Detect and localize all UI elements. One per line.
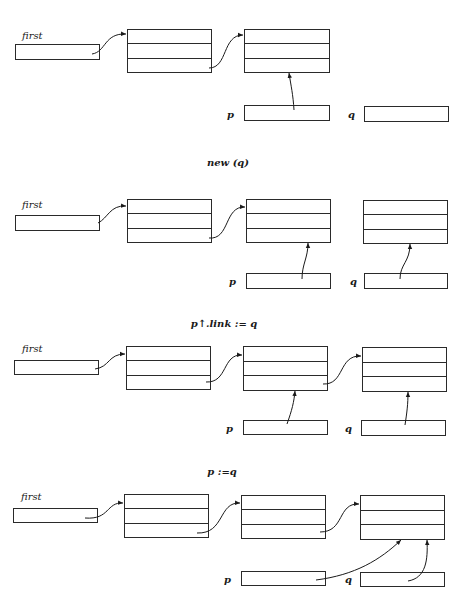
node-2 — [247, 200, 331, 243]
stage-2: first p q — [16, 199, 448, 289]
node-2 — [242, 496, 326, 539]
p-label: p — [226, 423, 233, 434]
node-1 — [127, 347, 211, 390]
q-pointer-box — [365, 274, 448, 289]
arrow-node1-to-node2 — [209, 207, 245, 238]
node-3 — [361, 496, 445, 540]
first-label: first — [20, 491, 43, 502]
first-pointer-box — [16, 45, 100, 60]
node-3 — [363, 348, 447, 392]
node-1 — [128, 200, 212, 243]
node-1 — [128, 30, 212, 73]
caption-p-assign: p :=q — [207, 466, 237, 477]
p-pointer-box — [244, 421, 328, 435]
arrow-node2-to-node3 — [323, 356, 361, 384]
q-pointer-box — [365, 107, 449, 122]
first-label: first — [21, 199, 44, 210]
p-pointer-box — [242, 572, 326, 586]
p-label: p — [224, 574, 231, 585]
q-label: q — [348, 109, 355, 120]
p-pointer-box — [245, 106, 330, 121]
arrow-first-to-node1 — [95, 354, 125, 369]
first-label: first — [21, 343, 44, 354]
first-pointer-box — [14, 509, 98, 523]
p-pointer-box — [247, 274, 331, 289]
caption-new-q: new (q) — [207, 157, 249, 168]
p-label: p — [229, 276, 236, 287]
node-1 — [125, 495, 209, 538]
p-label: p — [227, 109, 234, 120]
arrow-node1-to-node2 — [206, 355, 242, 382]
linked-list-diagram: new (q) p↑.link := q p :=q first p q fir… — [0, 0, 461, 600]
node-2 — [245, 30, 330, 73]
arrow-first-to-node1 — [98, 206, 126, 223]
node-3 — [364, 201, 448, 244]
arrow-node1-to-node2 — [209, 35, 243, 68]
arrow-p-to-node2 — [289, 73, 294, 110]
arrow-p-to-node2 — [287, 391, 295, 424]
caption-link-assign: p↑.link := q — [191, 318, 258, 329]
q-label: q — [345, 574, 352, 585]
first-pointer-box — [16, 216, 100, 231]
first-label: first — [21, 30, 44, 41]
q-label: q — [350, 276, 357, 287]
q-pointer-box — [361, 573, 445, 587]
stage-1: first p q — [16, 30, 449, 122]
node-2 — [244, 347, 328, 391]
stage-3: first p q — [15, 343, 447, 436]
stage-4: first p q — [14, 491, 445, 587]
q-pointer-box — [362, 421, 446, 436]
q-label: q — [345, 423, 352, 434]
first-pointer-box — [15, 361, 99, 375]
